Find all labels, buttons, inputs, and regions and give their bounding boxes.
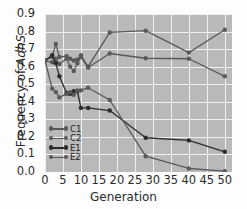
- data-point: [223, 169, 227, 172]
- data-point: [79, 55, 83, 59]
- data-point: [108, 98, 112, 102]
- data-point: [79, 88, 83, 92]
- data-point: [64, 57, 68, 61]
- data-point: [108, 108, 112, 112]
- y-axis-label: Frequency of AdhS: [14, 16, 28, 166]
- data-point: [72, 69, 76, 73]
- legend-swatch-icon: [49, 153, 68, 162]
- data-point: [143, 28, 147, 32]
- legend-swatch-icon: [49, 124, 68, 133]
- legend-label: E2: [68, 153, 81, 162]
- data-point: [68, 64, 72, 68]
- data-point: [86, 65, 90, 69]
- series-c1: [45, 28, 227, 69]
- data-point: [75, 61, 79, 65]
- data-point: [143, 136, 147, 140]
- data-point: [223, 74, 227, 78]
- legend-label: C2: [68, 134, 81, 143]
- data-point: [79, 106, 83, 110]
- data-point: [50, 53, 54, 57]
- series-line: [45, 54, 225, 77]
- legend-label: E1: [68, 144, 81, 153]
- series-c2: [45, 51, 227, 78]
- data-point: [50, 86, 54, 90]
- data-point: [72, 93, 76, 97]
- data-point: [108, 30, 112, 34]
- data-point: [187, 166, 191, 170]
- legend-swatch-icon: [49, 134, 68, 143]
- chart-figure: 0.00.10.20.30.40.50.60.70.80.9 051015202…: [0, 0, 247, 209]
- legend-item-e2: E2: [49, 153, 91, 163]
- data-point: [54, 42, 58, 46]
- data-point: [57, 74, 61, 78]
- data-point: [143, 56, 147, 60]
- y-tick-label: 0.0: [5, 166, 35, 178]
- x-tick-label: 50: [214, 175, 236, 187]
- chart-legend: C1C2E1E2: [49, 124, 91, 162]
- x-axis-label: Generation: [0, 190, 247, 204]
- data-point: [68, 90, 72, 94]
- legend-swatch-icon: [49, 143, 68, 152]
- data-point: [86, 86, 90, 90]
- data-point: [86, 106, 90, 110]
- legend-label: C1: [68, 125, 81, 134]
- data-point: [187, 138, 191, 142]
- data-point: [187, 50, 191, 54]
- data-point: [54, 90, 58, 94]
- legend-item-c2: C2: [49, 134, 91, 144]
- data-point: [143, 154, 147, 158]
- data-point: [54, 61, 58, 65]
- data-point: [187, 57, 191, 61]
- data-point: [223, 28, 227, 32]
- data-point: [223, 150, 227, 154]
- data-point: [57, 95, 61, 99]
- data-point: [108, 51, 112, 55]
